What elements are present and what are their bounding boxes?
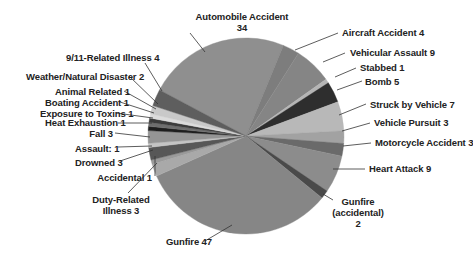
leader-line [343,143,371,146]
slice-label-line: Stabbed 1 [360,62,405,73]
slice-label: Aircraft Accident 4 [342,27,424,38]
pie-slices [148,38,344,234]
slice-label-line: Aircraft Accident 4 [342,27,424,38]
leader-line [342,123,370,131]
leader-line [190,33,205,52]
slice-label-line: Gunfire [325,196,391,207]
slice-label-line: 34 [187,22,297,33]
slice-label: Motorcycle Accident 3 [375,137,473,148]
slice-label-line: Motorcycle Accident 3 [375,137,473,148]
slice-label-line: Struck by Vehicle 7 [370,99,455,110]
slice-label: Heart Attack 9 [369,163,431,174]
leader-line [145,63,162,91]
slice-label-line: Boating Accident 1 [45,97,117,108]
slice-label: Accidental 1 [75,172,152,183]
leader-line [115,133,150,137]
slice-label-line: 2 [325,218,391,229]
slice-label-line: Drowned 3 [75,157,119,168]
slice-label-line: (accidental) [325,207,391,218]
slice-label-line: Vehicle Pursuit 3 [374,117,448,128]
leader-line [335,68,356,77]
slice-label-line: Bomb 5 [365,76,399,87]
slice-label: Stabbed 1 [360,62,405,73]
slice-label-line: Exposure to Toxins 1 [40,108,113,119]
slice-label-line: Assault: 1 [75,143,115,154]
slice-label: Boating Accident 1 [45,97,117,108]
leader-line [337,81,362,90]
slice-label: Animal Related 1 [55,86,122,97]
slice-label-line: Gunfire 47 [166,236,212,247]
slice-label: Struck by Vehicle 7 [370,99,455,110]
slice-label-line: Illness 3 [75,205,167,216]
leader-line [339,104,366,115]
slice-label-line: 9/11-Related Illness 4 [66,52,148,63]
slice-label: Gunfire(accidental)2 [325,196,391,229]
slice-label: Weather/Natural Disaster 2 [26,71,128,82]
slice-label: Gunfire 47 [166,236,212,247]
slice-label: 9/11-Related Illness 4 [66,52,148,63]
slice-label-line: Animal Related 1 [55,86,122,97]
slice-label: Duty-RelatedIllness 3 [75,194,167,216]
slice-label-line: Duty-Related [75,194,167,205]
slice-label: Drowned 3 [75,157,119,168]
slice-label-line: Fall 3 [75,128,113,139]
slice-label-line: Weather/Natural Disaster 2 [26,71,128,82]
slice-label: Vehicular Assault 9 [350,47,435,58]
slice-label: Assault: 1 [75,143,115,154]
slice-label: Automobile Accident34 [187,11,297,33]
slice-label-line: Vehicular Assault 9 [350,47,435,58]
slice-label: Bomb 5 [365,76,399,87]
slice-label: Vehicle Pursuit 3 [374,117,448,128]
slice-label-line: Automobile Accident [187,11,297,22]
slice-label-line: Heart Attack 9 [369,163,431,174]
leader-line [323,53,345,62]
slice-label-line: Accidental 1 [75,172,152,183]
leader-line [295,33,338,50]
slice-label: Exposure to Toxins 1 [40,108,113,119]
leader-line [120,150,153,161]
leader-line [118,146,152,147]
slice-label: Fall 3 [75,128,113,139]
